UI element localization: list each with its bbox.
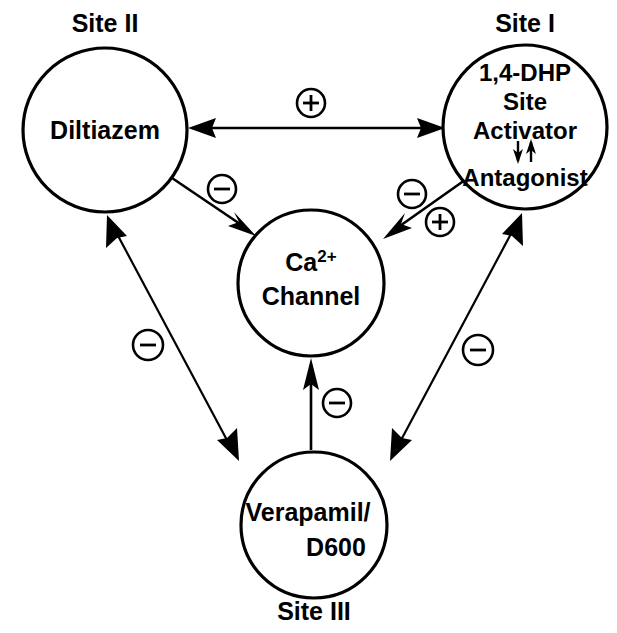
arrow-head-right <box>417 118 445 138</box>
edge-line <box>116 232 228 442</box>
arrow-head-left <box>188 118 216 138</box>
node-site1[interactable]: Site I 1,4-DHP Site Activator Antagonist <box>443 9 607 209</box>
site1-node-text-line5: Antagonist <box>462 164 587 191</box>
arrow-head-bottom <box>217 428 239 461</box>
edge-site1-site3 <box>390 213 523 461</box>
site3-site-label: Site III <box>277 597 351 625</box>
badge-plus-site2-site1 <box>297 89 325 117</box>
channel-ca-base: Ca <box>285 248 318 276</box>
arrow-head-top <box>502 213 523 246</box>
site2-site-label: Site II <box>72 9 139 37</box>
edge-site2-site1 <box>188 118 445 138</box>
node-site3[interactable]: Verapamil/ D600 Site III <box>241 452 387 625</box>
badge-minus-site3-channel <box>323 389 351 417</box>
arrow-head-bottom <box>390 428 412 461</box>
badge-minus-site2-channel <box>208 175 236 203</box>
channel-ca-superscript: 2+ <box>317 247 336 266</box>
site1-site-label: Site I <box>495 9 555 37</box>
site1-node-text-line2: Site <box>503 88 547 115</box>
edge-site3-channel <box>303 358 319 450</box>
arrow-head <box>228 212 256 236</box>
badge-minus-site1-channel <box>398 180 426 208</box>
site3-node-text-line1: Verapamil/ <box>245 498 370 526</box>
node-channel[interactable]: Ca2+ Channel <box>238 210 384 356</box>
site1-node-text-line1: 1,4-DHP <box>479 59 571 86</box>
badge-minus-site1-site3 <box>463 335 493 365</box>
arrow-head-top <box>106 215 127 248</box>
site2-node-text: Diltiazem <box>50 116 160 144</box>
node-site2[interactable]: Site II Diltiazem <box>23 9 187 212</box>
diagram-canvas: Site II Diltiazem Site I 1,4-DHP Site Ac… <box>0 0 617 633</box>
site1-node-text-line3: Activator <box>473 117 577 144</box>
arrow-head <box>383 213 412 239</box>
diagram-svg: Site II Diltiazem Site I 1,4-DHP Site Ac… <box>0 0 617 633</box>
site3-node-text-line2: D600 <box>306 533 366 561</box>
edge-site2-site3 <box>106 215 239 461</box>
channel-node-text-line2: Channel <box>262 282 361 310</box>
badge-minus-site2-site3 <box>133 330 163 360</box>
badge-plus-site1-channel <box>426 208 454 236</box>
edge-line <box>400 230 513 442</box>
